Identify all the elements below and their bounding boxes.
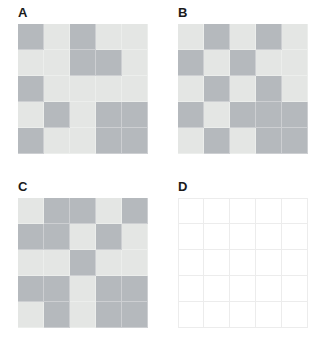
heatmap-cell xyxy=(96,24,122,50)
heatmap-cell xyxy=(178,50,204,76)
heatmap-cell xyxy=(256,224,282,250)
heatmap-grid xyxy=(18,24,148,154)
heatmap-cell xyxy=(18,50,44,76)
heatmap-cell xyxy=(282,76,308,102)
heatmap-cell xyxy=(18,24,44,50)
heatmap-cell xyxy=(282,224,308,250)
heatmap-cell xyxy=(122,250,148,276)
heatmap-cell xyxy=(256,128,282,154)
heatmap-cell xyxy=(70,224,96,250)
heatmap-cell xyxy=(230,76,256,102)
panel-label: D xyxy=(178,180,188,194)
panel-c: C xyxy=(8,180,156,350)
heatmap-cell xyxy=(230,24,256,50)
heatmap-cell xyxy=(178,24,204,50)
panel-label: C xyxy=(18,180,28,194)
heatmap-cell xyxy=(96,276,122,302)
heatmap-cell xyxy=(122,24,148,50)
heatmap-cell xyxy=(204,302,230,328)
heatmap-cell xyxy=(282,50,308,76)
figure-canvas: ABCD xyxy=(0,0,323,353)
heatmap-cell xyxy=(122,302,148,328)
heatmap-cell xyxy=(44,50,70,76)
heatmap-cell xyxy=(122,276,148,302)
heatmap-cell xyxy=(44,24,70,50)
heatmap-cell xyxy=(256,76,282,102)
heatmap-cell xyxy=(18,102,44,128)
heatmap-cell xyxy=(44,128,70,154)
panel-b: B xyxy=(168,6,316,176)
heatmap-cell xyxy=(96,302,122,328)
heatmap-cell xyxy=(18,224,44,250)
heatmap-cell xyxy=(122,76,148,102)
heatmap-cell xyxy=(70,24,96,50)
heatmap-cell xyxy=(256,50,282,76)
heatmap-cell xyxy=(282,24,308,50)
heatmap-cell xyxy=(204,128,230,154)
heatmap-grid xyxy=(178,198,308,328)
heatmap-cell xyxy=(96,50,122,76)
heatmap-cell xyxy=(256,276,282,302)
heatmap-cell xyxy=(18,276,44,302)
heatmap-cell xyxy=(256,198,282,224)
heatmap-cell xyxy=(178,128,204,154)
heatmap-cell xyxy=(70,276,96,302)
heatmap-cell xyxy=(230,250,256,276)
heatmap-cell xyxy=(230,276,256,302)
heatmap-cell xyxy=(122,128,148,154)
heatmap-cell xyxy=(282,128,308,154)
heatmap-cell xyxy=(204,250,230,276)
heatmap-cell xyxy=(256,250,282,276)
heatmap-cell xyxy=(204,76,230,102)
heatmap-cell xyxy=(18,76,44,102)
heatmap-cell xyxy=(230,224,256,250)
heatmap-cell xyxy=(96,76,122,102)
heatmap-cell xyxy=(282,198,308,224)
panel-label: A xyxy=(18,6,28,20)
heatmap-cell xyxy=(18,128,44,154)
heatmap-cell xyxy=(204,276,230,302)
heatmap-cell xyxy=(18,250,44,276)
heatmap-cell xyxy=(282,276,308,302)
heatmap-cell xyxy=(230,128,256,154)
heatmap-cell xyxy=(70,128,96,154)
heatmap-cell xyxy=(70,102,96,128)
heatmap-cell xyxy=(282,102,308,128)
heatmap-cell xyxy=(44,198,70,224)
heatmap-cell xyxy=(44,102,70,128)
heatmap-cell xyxy=(282,250,308,276)
heatmap-cell xyxy=(44,302,70,328)
heatmap-cell xyxy=(96,102,122,128)
panel-a: A xyxy=(8,6,156,176)
heatmap-cell xyxy=(230,302,256,328)
heatmap-cell xyxy=(230,198,256,224)
heatmap-cell xyxy=(256,102,282,128)
heatmap-cell xyxy=(204,198,230,224)
heatmap-cell xyxy=(204,24,230,50)
heatmap-grid xyxy=(18,198,148,328)
heatmap-cell xyxy=(70,50,96,76)
heatmap-cell xyxy=(256,302,282,328)
heatmap-cell xyxy=(96,224,122,250)
heatmap-cell xyxy=(70,76,96,102)
heatmap-cell xyxy=(204,102,230,128)
heatmap-cell xyxy=(44,76,70,102)
heatmap-cell xyxy=(230,50,256,76)
heatmap-cell xyxy=(122,50,148,76)
panel-d: D xyxy=(168,180,316,350)
heatmap-cell xyxy=(204,224,230,250)
heatmap-cell xyxy=(44,250,70,276)
heatmap-cell xyxy=(70,198,96,224)
heatmap-cell xyxy=(70,250,96,276)
heatmap-cell xyxy=(44,276,70,302)
heatmap-cell xyxy=(70,302,96,328)
heatmap-cell xyxy=(18,302,44,328)
panel-label: B xyxy=(178,6,188,20)
heatmap-cell xyxy=(96,128,122,154)
heatmap-cell xyxy=(178,198,204,224)
heatmap-cell xyxy=(44,224,70,250)
heatmap-cell xyxy=(178,102,204,128)
heatmap-cell xyxy=(18,198,44,224)
heatmap-grid xyxy=(178,24,308,154)
heatmap-cell xyxy=(96,250,122,276)
